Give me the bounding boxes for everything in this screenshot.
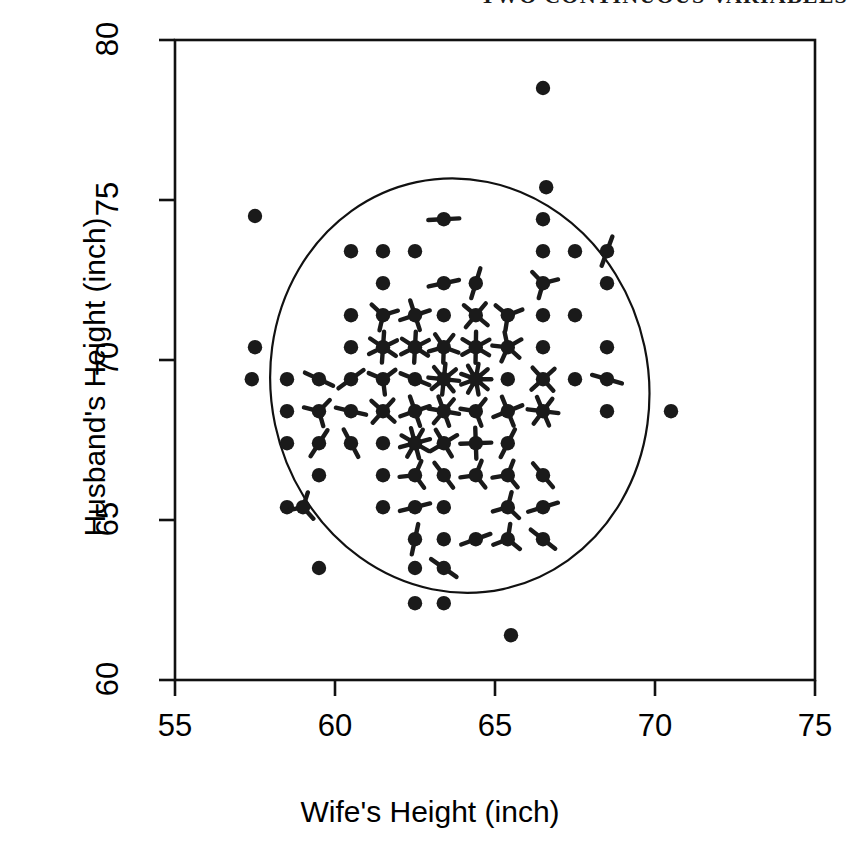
sunflower-marker — [344, 430, 359, 457]
sunflower-center-dot — [376, 500, 390, 514]
sunflower-marker — [528, 397, 559, 426]
sunflower-center-dot — [437, 532, 451, 546]
sunflower-marker — [428, 212, 459, 226]
sunflower-marker — [460, 399, 485, 426]
sunflower-marker — [568, 308, 582, 322]
sunflower-marker — [400, 428, 430, 458]
sunflower-marker — [533, 463, 553, 487]
sunflower-center-dot — [312, 436, 326, 450]
y-tick-label: 60 — [90, 644, 126, 714]
sunflower-marker — [600, 276, 614, 290]
sunflower-marker — [305, 372, 333, 386]
sunflower-marker — [469, 268, 483, 298]
sunflower-center-dot — [469, 308, 483, 322]
sunflower-center-dot — [344, 436, 358, 450]
sunflower-center-dot — [568, 308, 582, 322]
sunflower-center-dot — [280, 404, 294, 418]
sunflower-marker — [400, 300, 429, 329]
sunflower-center-dot — [600, 340, 614, 354]
sunflower-center-dot — [248, 209, 262, 223]
sunflower-marker — [248, 209, 262, 223]
sunflower-center-dot — [408, 532, 422, 546]
sunflower-center-dot — [376, 244, 390, 258]
sunflower-center-dot — [469, 436, 483, 450]
sunflower-center-dot — [408, 244, 422, 258]
sunflower-center-dot — [501, 500, 515, 514]
x-tick-label: 70 — [620, 708, 690, 744]
sunflower-marker — [600, 340, 614, 354]
sunflower-center-dot — [501, 340, 515, 354]
sunflower-marker — [539, 180, 553, 194]
sunflower-center-dot — [344, 372, 358, 386]
sunflower-marker — [369, 332, 397, 363]
sunflower-marker — [434, 463, 453, 488]
sunflower-marker — [369, 370, 396, 395]
sunflower-center-dot — [469, 372, 483, 386]
sunflower-marker — [408, 561, 422, 575]
sunflower-marker — [462, 332, 489, 363]
sunflower-marker — [336, 404, 366, 418]
sunflower-center-dot — [437, 340, 451, 354]
sunflower-marker — [401, 332, 429, 363]
sunflower-center-dot — [437, 276, 451, 290]
sunflower-marker — [312, 561, 326, 575]
sunflower-marker — [437, 532, 451, 546]
sunflower-marker — [280, 404, 294, 418]
sunflower-center-dot — [280, 436, 294, 450]
sunflower-center-dot — [568, 372, 582, 386]
sunflower-center-dot — [280, 372, 294, 386]
sunflower-marker — [344, 308, 358, 322]
sunflower-center-dot — [344, 404, 358, 418]
sunflower-marker — [592, 372, 622, 386]
sunflower-center-dot — [296, 500, 310, 514]
sunflower-center-dot — [408, 596, 422, 610]
sunflower-center-dot — [600, 244, 614, 258]
sunflower-center-dot — [408, 500, 422, 514]
sunflower-marker — [501, 429, 515, 457]
sunflower-center-dot — [536, 404, 550, 418]
sunflower-center-dot — [408, 372, 422, 386]
sunflower-marker — [312, 468, 326, 482]
sunflower-marker — [501, 372, 515, 386]
sunflower-marker — [429, 397, 460, 426]
sunflower-marker — [493, 524, 520, 549]
sunflower-marker — [600, 404, 614, 418]
y-tick-label: 65 — [90, 484, 126, 554]
sunflower-marker — [504, 628, 518, 642]
sunflower-center-dot — [501, 372, 515, 386]
sunflower-marker — [372, 305, 398, 331]
sunflower-center-dot — [437, 596, 451, 610]
sunflower-marker — [528, 500, 558, 514]
sunflower-center-dot — [248, 340, 262, 354]
sunflower-marker — [428, 364, 459, 395]
sunflower-center-dot — [600, 276, 614, 290]
sunflower-marker — [408, 244, 422, 258]
sunflower-center-dot — [408, 308, 422, 322]
sunflower-center-dot — [469, 340, 483, 354]
sunflower-marker — [493, 397, 522, 426]
sunflower-marker — [429, 276, 459, 290]
x-tick-label: 65 — [460, 708, 530, 744]
sunflower-center-dot — [536, 468, 550, 482]
sunflower-center-dot — [376, 404, 390, 418]
sunflower-center-dot — [437, 500, 451, 514]
sunflower-marker — [536, 81, 550, 95]
sunflower-center-dot — [504, 628, 518, 642]
sunflower-center-dot — [536, 372, 550, 386]
sunflower-marker — [568, 372, 582, 386]
x-tick-label: 55 — [140, 708, 210, 744]
sunflower-marker — [376, 276, 390, 290]
sunflower-marker — [461, 532, 490, 546]
sunflower-marker — [245, 372, 259, 386]
sunflower-marker — [568, 244, 582, 258]
x-tick-label: 60 — [300, 708, 370, 744]
sunflower-marker — [401, 372, 430, 386]
sunflower-center-dot — [376, 308, 390, 322]
sunflower-marker — [376, 500, 390, 514]
sunflower-center-dot — [469, 404, 483, 418]
sunflower-marker — [376, 468, 390, 482]
sunflower-marker — [460, 461, 485, 488]
sunflower-marker — [492, 332, 521, 361]
sunflower-marker — [338, 370, 363, 388]
sunflower-center-dot — [437, 561, 451, 575]
